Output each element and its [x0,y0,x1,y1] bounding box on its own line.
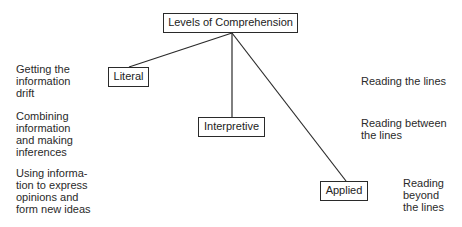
node-applied: Applied [320,181,368,201]
reading-applied: Reading beyond the lines [403,177,444,213]
description-line: Using informa- [16,167,91,179]
reading-line: Reading between [361,117,447,129]
description-line: inferences [16,146,73,158]
node-applied-label: Applied [326,184,363,196]
reading-line: the lines [403,201,444,213]
root-node-label: Levels of Comprehension [168,16,293,28]
reading-interpretive: Reading between the lines [361,117,447,141]
description-line: Getting the [16,63,70,75]
connector-root-to-applied [232,33,346,181]
description-line: information [16,75,70,87]
reading-line: beyond [403,189,444,201]
description-line: opinions and [16,191,91,203]
reading-line: the lines [361,129,447,141]
description-applied: Using informa- tion to express opinions … [16,167,91,215]
node-interpretive: Interpretive [198,117,265,137]
connector-root-to-literal [129,33,232,67]
description-line: tion to express [16,179,91,191]
description-line: drift [16,87,70,99]
description-literal: Getting the information drift [16,63,70,99]
reading-line: Reading the lines [361,75,446,87]
reading-literal: Reading the lines [361,75,446,87]
description-line: and making [16,134,73,146]
description-line: form new ideas [16,203,91,215]
description-line: Combining [16,110,73,122]
description-line: information [16,122,73,134]
root-node-levels-of-comprehension: Levels of Comprehension [163,13,298,33]
description-interpretive: Combining information and making inferen… [16,110,73,158]
reading-line: Reading [403,177,444,189]
node-literal-label: Literal [114,70,144,82]
node-interpretive-label: Interpretive [204,120,259,132]
node-literal: Literal [108,67,149,87]
